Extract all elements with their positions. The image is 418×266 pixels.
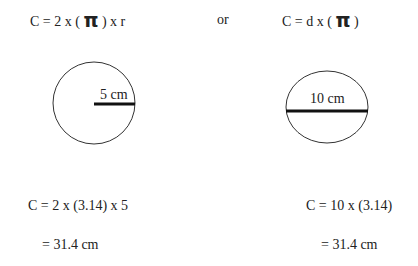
right-calculation-line1: C = 10 x (3.14): [306, 198, 392, 214]
circle-diagrams: [0, 0, 418, 266]
diameter-circle: [286, 71, 368, 143]
radius-circle: [53, 62, 135, 144]
left-calculation-result: = 31.4 cm: [42, 237, 99, 253]
radius-label: 5 cm: [100, 87, 128, 103]
diameter-label: 10 cm: [310, 91, 345, 107]
left-calculation-line1: C = 2 x (3.14) x 5: [28, 198, 128, 214]
right-calculation-result: = 31.4 cm: [321, 237, 378, 253]
